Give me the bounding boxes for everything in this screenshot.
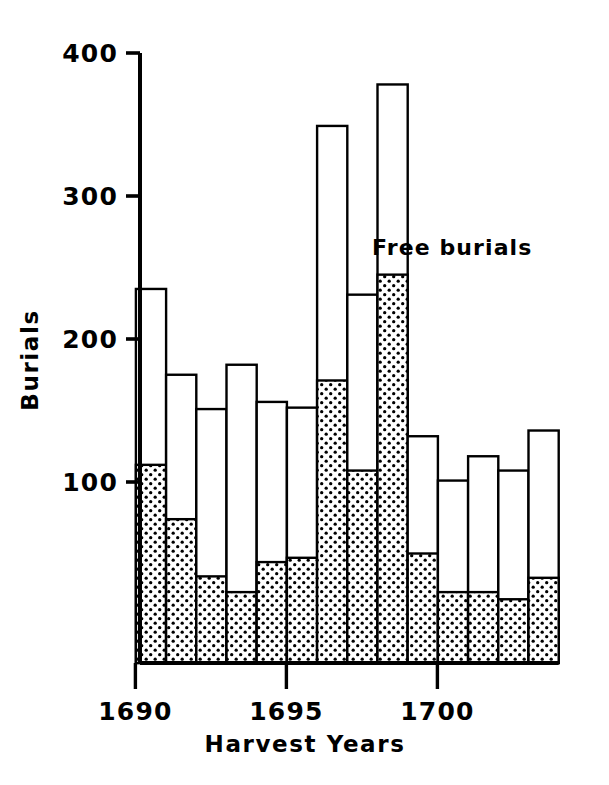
bar-1702[interactable] bbox=[498, 471, 528, 663]
y-axis-title: Burials bbox=[17, 309, 43, 410]
bar-free-segment bbox=[166, 519, 196, 663]
x-tick-label: 1700 bbox=[400, 697, 474, 726]
bar-1701[interactable] bbox=[468, 456, 498, 663]
bar-free-segment bbox=[317, 380, 347, 663]
bar-1692[interactable] bbox=[196, 409, 226, 663]
bar-free-segment bbox=[257, 562, 287, 663]
x-axis: 169016951700 bbox=[98, 663, 558, 726]
x-axis-title: Harvest Years bbox=[205, 731, 406, 757]
y-tick-label: 200 bbox=[62, 325, 118, 354]
x-tick-label: 1695 bbox=[249, 697, 323, 726]
burials-stacked-bar-chart: 100200300400 169016951700 Free burials B… bbox=[0, 0, 609, 785]
bar-1693[interactable] bbox=[227, 365, 257, 663]
bar-1699[interactable] bbox=[408, 436, 438, 663]
bar-1695[interactable] bbox=[287, 408, 317, 663]
bar-free-segment bbox=[408, 554, 438, 664]
bar-1696[interactable] bbox=[317, 126, 347, 663]
free-burials-annotation: Free burials bbox=[372, 235, 532, 260]
bar-1691[interactable] bbox=[166, 375, 196, 663]
bar-free-segment bbox=[438, 592, 468, 663]
bar-free-segment bbox=[287, 558, 317, 663]
bar-free-segment bbox=[227, 592, 257, 663]
bar-free-segment bbox=[468, 592, 498, 663]
bar-1698[interactable] bbox=[378, 84, 408, 663]
chart-container: 100200300400 169016951700 Free burials B… bbox=[0, 0, 609, 785]
x-tick-label: 1690 bbox=[98, 697, 172, 726]
bar-1700[interactable] bbox=[438, 481, 468, 663]
bar-1697[interactable] bbox=[347, 295, 377, 663]
bar-free-segment bbox=[498, 599, 528, 663]
bar-1694[interactable] bbox=[257, 402, 287, 663]
bar-free-segment bbox=[378, 275, 408, 663]
y-tick-label: 100 bbox=[62, 468, 118, 497]
bar-series-group bbox=[136, 84, 559, 663]
y-tick-label: 300 bbox=[62, 182, 118, 211]
bar-free-segment bbox=[529, 578, 559, 663]
bar-free-segment bbox=[347, 471, 377, 663]
y-axis: 100200300400 bbox=[62, 39, 140, 663]
bar-free-segment bbox=[196, 576, 226, 663]
y-tick-label: 400 bbox=[62, 39, 118, 68]
bar-1703[interactable] bbox=[529, 431, 559, 663]
